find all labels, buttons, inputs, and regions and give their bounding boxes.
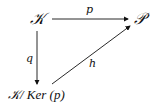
node-quotient: 𝒦/ Ker (p) [8,88,65,101]
label-p: p [86,4,93,15]
label-h: h [89,58,96,69]
arrow-h [52,26,130,84]
node-k: 𝒦 [30,11,45,27]
node-p: 𝒫 [134,11,146,27]
label-q: q [26,53,33,64]
